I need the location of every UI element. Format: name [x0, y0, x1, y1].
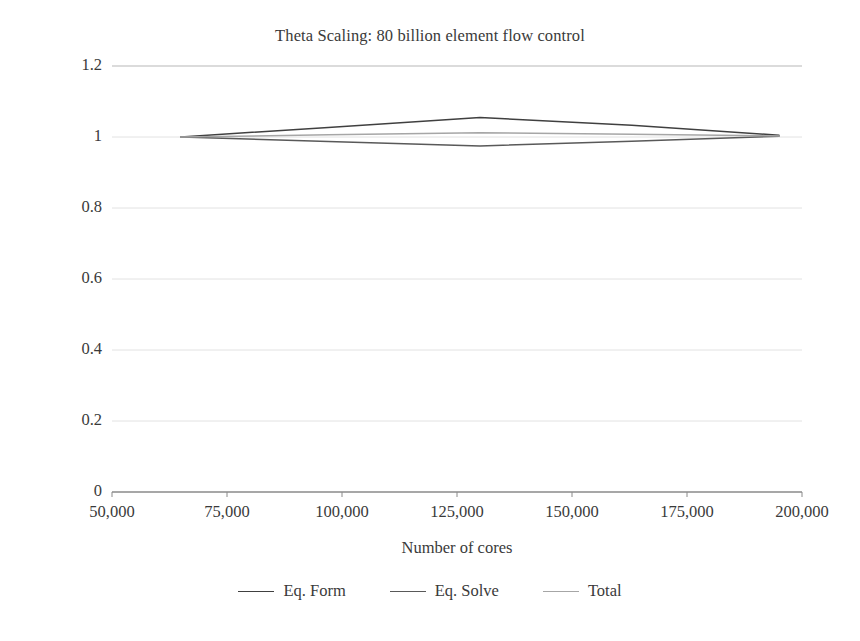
legend-line-icon: [238, 591, 274, 592]
x-axis-tick-label: 150,000: [512, 502, 632, 522]
legend-item[interactable]: Total: [543, 581, 622, 601]
legend-line-icon: [543, 591, 579, 592]
legend-item[interactable]: Eq. Form: [238, 581, 345, 601]
legend-label: Eq. Form: [283, 581, 345, 601]
x-axis-tick-label: 50,000: [52, 502, 172, 522]
chart-container: Theta Scaling: 80 billion element flow c…: [0, 0, 860, 641]
x-axis-tick-label: 200,000: [742, 502, 860, 522]
x-axis-tick-label: 175,000: [627, 502, 747, 522]
x-axis-title: Number of cores: [112, 538, 802, 558]
legend-label: Total: [588, 581, 622, 601]
chart-legend: Eq. FormEq. SolveTotal: [0, 581, 860, 601]
x-axis-tick-label: 75,000: [167, 502, 287, 522]
x-axis-tick-label: 125,000: [397, 502, 517, 522]
legend-line-icon: [390, 591, 426, 592]
x-axis-tick-label: 100,000: [282, 502, 402, 522]
legend-item[interactable]: Eq. Solve: [390, 581, 499, 601]
legend-label: Eq. Solve: [435, 581, 499, 601]
